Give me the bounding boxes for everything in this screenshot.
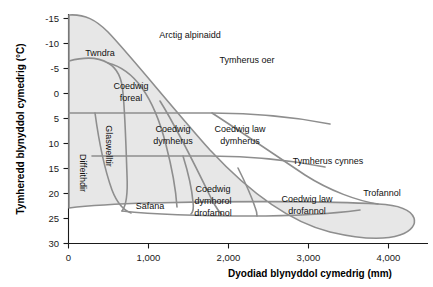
x-tick-label: 2,000 bbox=[217, 252, 241, 263]
x-tick-labels: 0 1,000 2,000 3,000 4,000 bbox=[66, 252, 401, 263]
y-tick-label: 10 bbox=[48, 138, 59, 149]
biome-label-temperate-rainforest: Coedwig law dymherus bbox=[214, 124, 266, 146]
y-tick-label: 20 bbox=[48, 188, 59, 199]
biome-label-temperate-rainforest-line2: dymherus bbox=[220, 136, 260, 146]
y-tick-label: 30 bbox=[48, 238, 59, 249]
biome-label-temperate-forest-line2: dymherus bbox=[153, 136, 193, 146]
whittaker-biome-diagram: -15 -10 -5 0 5 10 15 20 25 30 0 1,000 2,… bbox=[0, 0, 433, 287]
y-tick-label: 25 bbox=[48, 213, 59, 224]
biome-label-temperate-rainforest-line1: Coedwig law bbox=[214, 124, 266, 134]
biome-label-tropical-seasonal-line1: Coedwig bbox=[195, 184, 230, 194]
y-tick-label: 0 bbox=[54, 88, 59, 99]
biome-label-warm-temperate: Tymherus cynnes bbox=[293, 156, 364, 166]
y-tick-label: 15 bbox=[48, 163, 59, 174]
biome-label-desert: Diffeithdir bbox=[78, 154, 88, 192]
biome-label-tropical-seasonal-line3: drofannol bbox=[194, 208, 232, 218]
x-axis-ticks bbox=[69, 244, 389, 249]
biome-label-savanna: Safana bbox=[136, 201, 165, 211]
biome-label-grassland: Glaswelltir bbox=[104, 125, 114, 167]
x-tick-label: 1,000 bbox=[137, 252, 161, 263]
x-tick-label: 4,000 bbox=[377, 252, 401, 263]
x-axis-title: Dyodiad blynyddol cymedrig (mm) bbox=[228, 268, 392, 279]
biome-label-cold-temperate: Tymherus oer bbox=[219, 55, 274, 65]
y-axis-ticks bbox=[64, 19, 69, 244]
biome-label-tropical-seasonal-line2: dymhorol bbox=[194, 196, 231, 206]
biome-label-arctic-alpine: Arctig alpinaidd bbox=[159, 30, 221, 40]
biome-label-tropical: Trofannol bbox=[363, 188, 401, 198]
y-axis-title: Tymheredd blynyddol cymedrig (°C) bbox=[15, 43, 26, 214]
y-tick-label: -5 bbox=[51, 63, 59, 74]
chart-canvas: -15 -10 -5 0 5 10 15 20 25 30 0 1,000 2,… bbox=[0, 0, 433, 287]
biome-label-boreal-forest-line2: foreal bbox=[120, 93, 143, 103]
biome-label-tropical-rainforest-line2: drofannol bbox=[288, 206, 326, 216]
y-tick-label: -10 bbox=[45, 38, 59, 49]
biome-label-temperate-forest-line1: Coedwig bbox=[155, 124, 190, 134]
x-tick-label: 0 bbox=[66, 252, 71, 263]
x-tick-label: 3,000 bbox=[297, 252, 321, 263]
y-tick-label: -15 bbox=[45, 13, 59, 24]
biome-label-tropical-seasonal: Coedwig dymhorol drofannol bbox=[194, 184, 232, 218]
biome-label-tropical-rainforest-line1: Coedwig law bbox=[281, 194, 333, 204]
biome-label-tundra: Twndra bbox=[85, 48, 115, 58]
y-tick-label: 5 bbox=[54, 113, 59, 124]
y-tick-labels: -15 -10 -5 0 5 10 15 20 25 30 bbox=[45, 13, 59, 249]
biome-label-boreal-forest-line1: Coedwig bbox=[113, 81, 148, 91]
